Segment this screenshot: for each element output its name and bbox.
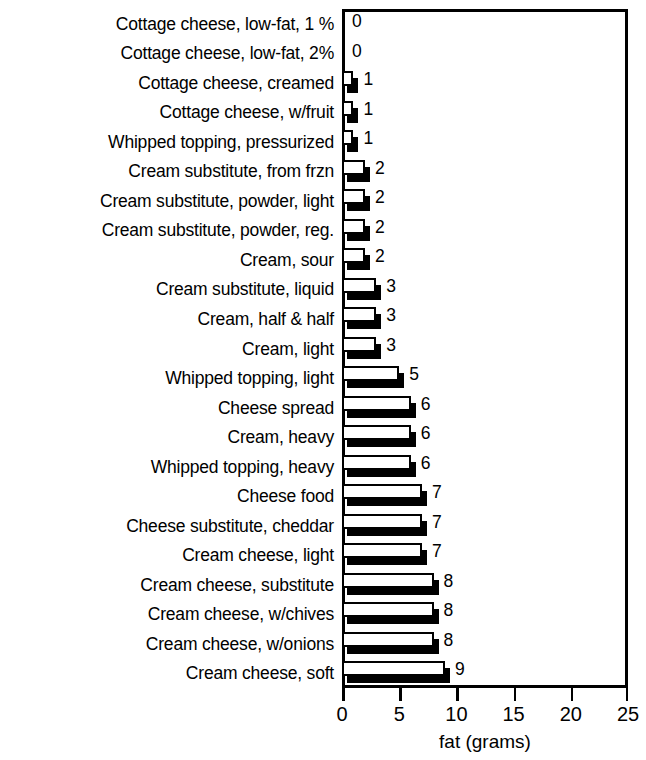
bar-row: 9	[342, 658, 628, 688]
category-label: Cheese substitute, cheddar	[0, 516, 334, 536]
bar-value-label: 8	[444, 630, 454, 651]
category-label: Cream substitute, from frzn	[0, 161, 334, 181]
bar-row: 8	[342, 629, 628, 659]
category-label-column: Cottage cheese, low-fat, 1 %Cottage chee…	[0, 9, 338, 688]
bar-row: 7	[342, 481, 628, 511]
bar-value-label: 8	[444, 571, 454, 592]
bar	[342, 573, 434, 588]
bar-row: 1	[342, 127, 628, 157]
bar-row: 5	[342, 363, 628, 393]
bar-value-label: 1	[363, 128, 373, 149]
category-label: Cream, light	[0, 339, 334, 359]
bar	[342, 160, 365, 175]
bar-value-label: 8	[444, 600, 454, 621]
bars-layer: 00111222233356667778889	[342, 9, 628, 688]
bar-value-label: 7	[432, 482, 442, 503]
bar-value-label: 2	[375, 158, 385, 179]
bar	[342, 130, 353, 145]
bar-row: 2	[342, 186, 628, 216]
x-axis-tick	[342, 688, 345, 701]
bar-value-label: 2	[375, 217, 385, 238]
category-label: Whipped topping, heavy	[0, 457, 334, 477]
bar	[342, 543, 422, 558]
category-label: Whipped topping, pressurized	[0, 132, 334, 152]
category-label: Cream substitute, powder, light	[0, 191, 334, 211]
bar-row: 7	[342, 511, 628, 541]
bar	[342, 307, 376, 322]
bar	[342, 71, 353, 86]
category-label: Cream substitute, liquid	[0, 279, 334, 299]
bar	[342, 514, 422, 529]
bar-value-label: 2	[375, 246, 385, 267]
x-axis-tick	[399, 688, 402, 701]
bar	[342, 337, 376, 352]
bar-value-label: 1	[363, 99, 373, 120]
category-label: Cream substitute, powder, reg.	[0, 220, 334, 240]
category-label: Cream cheese, w/onions	[0, 634, 334, 654]
bar-value-label: 0	[352, 41, 362, 62]
x-axis-tick-label: 15	[502, 702, 524, 726]
bar	[342, 661, 445, 676]
category-label: Cottage cheese, low-fat, 2%	[0, 43, 334, 63]
category-label: Cheese food	[0, 486, 334, 506]
bar-value-label: 6	[421, 394, 431, 415]
x-axis-tick	[514, 688, 517, 701]
category-label: Cottage cheese, w/fruit	[0, 102, 334, 122]
bar-row: 6	[342, 393, 628, 423]
category-label: Cottage cheese, creamed	[0, 73, 334, 93]
bar-row: 3	[342, 304, 628, 334]
bar-value-label: 5	[409, 364, 419, 385]
category-label: Cream cheese, light	[0, 545, 334, 565]
bar	[342, 101, 353, 116]
bar-value-label: 7	[432, 541, 442, 562]
bar	[342, 396, 411, 411]
x-axis-tick	[626, 688, 629, 701]
bar	[342, 632, 434, 647]
category-label: Cheese spread	[0, 398, 334, 418]
bar-value-label: 9	[455, 659, 465, 680]
category-label: Cream, sour	[0, 250, 334, 270]
bar-row: 8	[342, 599, 628, 629]
bar-value-label: 2	[375, 187, 385, 208]
x-axis-tick-label: 5	[394, 702, 405, 726]
x-axis-tick-label: 0	[336, 702, 347, 726]
bar	[342, 602, 434, 617]
category-label: Cream cheese, soft	[0, 663, 334, 683]
bar-row: 2	[342, 245, 628, 275]
bar-value-label: 0	[352, 11, 362, 32]
bar-row: 0	[342, 9, 628, 39]
bar-row: 6	[342, 452, 628, 482]
bar-row: 8	[342, 570, 628, 600]
bar	[342, 455, 411, 470]
bar-row: 7	[342, 540, 628, 570]
x-axis-tick	[456, 688, 459, 701]
x-axis-tick-label: 25	[617, 702, 639, 726]
bar-row: 1	[342, 68, 628, 98]
bar-row: 2	[342, 216, 628, 246]
bar-value-label: 1	[363, 69, 373, 90]
bar	[342, 425, 411, 440]
bar	[342, 366, 399, 381]
x-axis-tick	[571, 688, 574, 701]
bar-row: 3	[342, 334, 628, 364]
category-label: Cream, half & half	[0, 309, 334, 329]
bar-row: 3	[342, 275, 628, 305]
bar	[342, 219, 365, 234]
x-axis-tick-label: 10	[445, 702, 467, 726]
category-label: Cream, heavy	[0, 427, 334, 447]
bar	[342, 484, 422, 499]
bar-value-label: 6	[421, 423, 431, 444]
bar-row: 0	[342, 39, 628, 69]
x-axis-ticks	[342, 688, 628, 702]
bar-value-label: 6	[421, 453, 431, 474]
bar-value-label: 3	[386, 276, 396, 297]
bar-value-label: 3	[386, 305, 396, 326]
bar-row: 1	[342, 98, 628, 128]
x-axis-tick-labels: 0510152025	[342, 702, 628, 728]
bar	[342, 278, 376, 293]
bar-value-label: 3	[386, 335, 396, 356]
bar	[342, 189, 365, 204]
category-label: Whipped topping, light	[0, 368, 334, 388]
bar-value-label: 7	[432, 512, 442, 533]
bar-row: 6	[342, 422, 628, 452]
